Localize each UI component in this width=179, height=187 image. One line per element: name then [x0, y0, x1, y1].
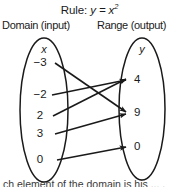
- domain-value-3: 3: [28, 127, 52, 139]
- domain-value-2: 2: [28, 109, 52, 121]
- range-value-0: 0: [134, 140, 158, 152]
- domain-variable-label: x: [34, 43, 54, 55]
- mapping-diagram: Rule: y = x2 Domain (input) Range (outpu…: [0, 0, 179, 187]
- caption-text: ch element of the domain is his ... .: [3, 178, 179, 187]
- mapping-arrow-0-to-0: [57, 147, 126, 160]
- mapping-arrow-2-to-4: [53, 79, 126, 116]
- mapping-svg: [0, 0, 179, 187]
- domain-value-neg2: −2: [28, 88, 52, 100]
- domain-value-0: 0: [28, 153, 52, 165]
- range-value-4: 4: [134, 73, 158, 85]
- domain-value-neg3: −3: [28, 56, 52, 68]
- mapping-arrow-3-to-9: [55, 114, 126, 134]
- range-variable-label: y: [132, 43, 152, 55]
- range-value-9: 9: [134, 106, 158, 118]
- mapping-arrow-neg2-to-4: [52, 80, 126, 95]
